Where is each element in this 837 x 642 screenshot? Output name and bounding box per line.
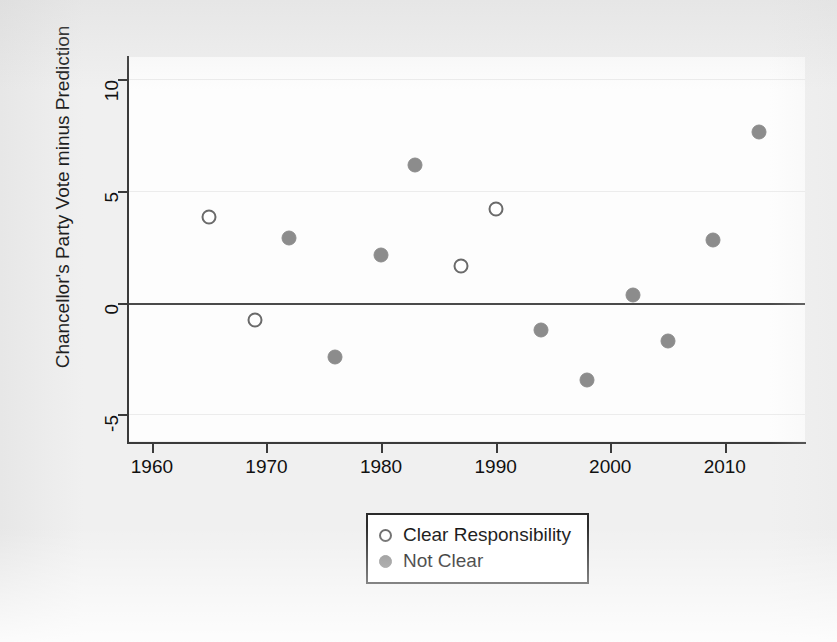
- data-point: [580, 372, 595, 387]
- x-tick-label-2010: 2010: [704, 456, 746, 478]
- data-point: [202, 209, 217, 224]
- y-tick-label-5: 5: [101, 192, 123, 203]
- data-point: [488, 201, 503, 216]
- x-tick-1990: [496, 444, 498, 453]
- x-tick-label-1960: 1960: [131, 456, 173, 478]
- y-tick-label-0: 0: [101, 304, 123, 315]
- scatter-plot-figure: Chancellor's Party Vote minus Prediction…: [0, 0, 837, 642]
- filled-circle-icon: [379, 555, 392, 568]
- zero-reference-line: [129, 303, 805, 305]
- data-point: [534, 323, 549, 338]
- data-point: [408, 158, 423, 173]
- x-axis-line: [127, 442, 806, 444]
- gridline-y-5: [129, 191, 805, 192]
- x-tick-label-1980: 1980: [360, 456, 402, 478]
- legend-item-clear-responsibility: Clear Responsibility: [379, 522, 571, 548]
- gridline-y-10: [129, 79, 805, 80]
- y-tick-label-10: 10: [101, 80, 123, 101]
- x-tick-1970: [266, 444, 268, 453]
- x-tick-2010: [725, 444, 727, 453]
- data-point: [454, 258, 469, 273]
- data-point: [752, 124, 767, 139]
- y-tick-label--5: -5: [101, 415, 123, 432]
- data-point: [706, 233, 721, 248]
- x-tick-label-1970: 1970: [245, 456, 287, 478]
- legend-item-not-clear: Not Clear: [379, 548, 571, 574]
- legend-label-not-clear: Not Clear: [403, 550, 483, 572]
- data-point: [374, 247, 389, 262]
- x-tick-1980: [381, 444, 383, 453]
- legend-label-clear-responsibility: Clear Responsibility: [403, 524, 571, 546]
- x-tick-label-1990: 1990: [475, 456, 517, 478]
- open-circle-icon: [379, 529, 392, 542]
- x-tick-1960: [152, 444, 154, 453]
- x-tick-label-2000: 2000: [589, 456, 631, 478]
- legend: Clear Responsibility Not Clear: [366, 513, 589, 584]
- gridline-y--5: [129, 414, 805, 415]
- x-tick-2000: [610, 444, 612, 453]
- plot-area: [129, 57, 805, 441]
- data-point: [626, 287, 641, 302]
- data-point: [282, 230, 297, 245]
- data-point: [660, 333, 675, 348]
- data-point: [248, 313, 263, 328]
- y-axis-title: Chancellor's Party Vote minus Prediction: [52, 12, 74, 382]
- data-point: [328, 350, 343, 365]
